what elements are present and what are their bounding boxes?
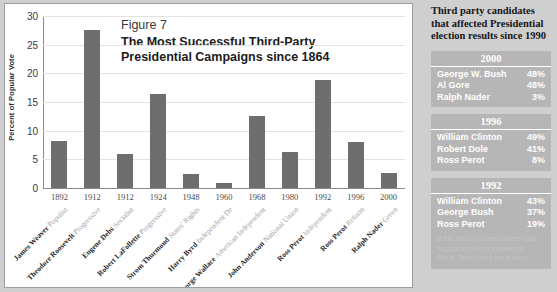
sidebar-year-blocks: 2000George W. Bush48%Al Gore48%Ralph Nad…	[431, 51, 551, 269]
y-axis-tick-label: 15	[27, 97, 38, 108]
result-candidate-name: Ross Perot	[437, 219, 485, 231]
candidate-party: Reform	[343, 205, 366, 228]
candidate-name: Ralph Nader	[349, 218, 386, 255]
x-axis-year-label: 2000	[369, 192, 409, 202]
year-block: 1996William Clinton49%Robert Dole41%Ross…	[431, 114, 551, 171]
y-axis-tick-label: 30	[27, 11, 38, 22]
bar	[348, 142, 364, 188]
bar	[51, 141, 67, 188]
year-block-header: 1996	[431, 114, 551, 130]
result-percent: 49%	[523, 132, 545, 144]
chart-panel: Percent of Popular Vote Figure 7 The Mos…	[4, 3, 413, 288]
result-row: George W. Bush48%	[431, 69, 551, 81]
bar	[150, 94, 166, 188]
sidebar: Third party candidates that affected Pre…	[425, 0, 557, 292]
candidate-party: Populist	[46, 205, 70, 229]
y-axis-tick-label: 5	[32, 154, 38, 165]
result-candidate-name: Ralph Nader	[437, 92, 490, 104]
result-candidate-name: William Clinton	[437, 132, 502, 144]
result-percent: 19%	[523, 219, 545, 231]
candidate-name: Ross Perot	[275, 231, 307, 263]
result-percent: 41%	[523, 144, 545, 156]
result-percent: 8%	[523, 155, 545, 167]
gridline	[43, 188, 405, 189]
y-axis-tick-label: 20	[27, 68, 38, 79]
sidebar-heading: Third party candidates that affected Pre…	[431, 5, 551, 43]
bar	[282, 152, 298, 188]
result-row: William Clinton43%	[431, 196, 551, 208]
result-candidate-name: William Clinton	[437, 196, 502, 208]
result-row: Ralph Nader3%	[431, 92, 551, 104]
candidate-party: Socialist	[111, 205, 136, 230]
x-axis-candidate-label: James Weaver Populist	[12, 205, 70, 263]
candidate-party: Independent	[301, 205, 334, 238]
candidate-name: Ross Perot	[318, 221, 350, 253]
y-axis-tick-label: 0	[32, 183, 38, 194]
y-axis-tick-label: 25	[27, 39, 38, 50]
result-candidate-name: George W. Bush	[437, 69, 507, 81]
gridline	[43, 16, 405, 17]
candidate-party: Green	[380, 205, 399, 224]
bar	[249, 116, 265, 188]
result-row: Al Gore48%	[431, 80, 551, 92]
result-row: George Bush37%	[431, 207, 551, 219]
bar	[117, 154, 133, 188]
year-block-header: 2000	[431, 51, 551, 67]
y-axis-label: Percent of Popular Vote	[7, 54, 19, 141]
candidate-party: Progressive	[137, 205, 168, 236]
result-candidate-name: George Bush	[437, 207, 494, 219]
candidate-party: Progressive	[72, 205, 103, 236]
result-row: Ross Perot19%	[431, 219, 551, 231]
figure-root: Percent of Popular Vote Figure 7 The Mos…	[0, 0, 557, 292]
year-block: 1992William Clinton43%George Bush37%Ross…	[431, 178, 551, 269]
year-block-header: 1992	[431, 178, 551, 194]
y-axis-tick-label: 10	[27, 125, 38, 136]
year-block: 2000George W. Bush48%Al Gore48%Ralph Nad…	[431, 51, 551, 108]
year-block-note: If the fiscal conservatives had supporte…	[431, 230, 551, 265]
candidate-name: Harry Byrd	[166, 239, 201, 274]
bar	[183, 174, 199, 188]
bar	[216, 183, 232, 188]
result-percent: 3%	[523, 92, 545, 104]
result-percent: 48%	[523, 80, 545, 92]
result-row: William Clinton49%	[431, 132, 551, 144]
bar	[315, 80, 331, 188]
result-percent: 43%	[523, 196, 545, 208]
result-percent: 48%	[523, 69, 545, 81]
result-candidate-name: Ross Perot	[437, 155, 485, 167]
result-row: Ross Perot8%	[431, 155, 551, 167]
x-axis-candidate-label: Harry Byrd Independent De	[166, 205, 234, 273]
result-candidate-name: Robert Dole	[437, 144, 488, 156]
bar	[381, 173, 397, 188]
result-candidate-name: Al Gore	[437, 80, 470, 92]
result-percent: 37%	[523, 207, 545, 219]
result-row: Robert Dole41%	[431, 144, 551, 156]
plot-area: 051015202530	[43, 16, 405, 188]
bar	[84, 30, 100, 188]
